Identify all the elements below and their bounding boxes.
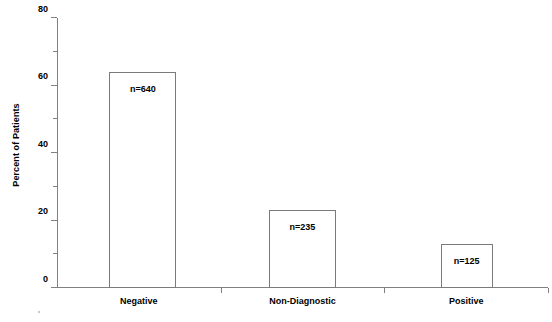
y-tick-label: 0 — [43, 274, 48, 284]
x-category-label: Negative — [120, 296, 158, 306]
y-tick-minor — [53, 118, 57, 119]
y-tick-major — [51, 152, 57, 153]
x-category-label: Non-Diagnostic — [269, 296, 336, 306]
y-tick-minor — [53, 51, 57, 52]
x-category-label: Positive — [449, 296, 484, 306]
y-axis-title-text: Percent of Patients — [11, 103, 21, 186]
y-tick-major — [51, 220, 57, 221]
y-tick-label: 80 — [38, 4, 48, 14]
bar-value-label: n=235 — [270, 222, 335, 232]
x-tick — [548, 288, 549, 293]
y-tick-minor — [53, 253, 57, 254]
bar-chart: Percent of Patients 020406080 n=640n=235… — [0, 0, 552, 322]
y-tick-label: 20 — [38, 206, 48, 216]
bar[interactable]: n=640 — [109, 72, 176, 288]
y-tick-label: 40 — [38, 139, 48, 149]
y-tick-major — [51, 17, 57, 18]
y-axis-line — [57, 18, 58, 288]
bar-value-label: n=125 — [442, 256, 492, 266]
x-tick — [221, 288, 222, 293]
y-tick-label: 60 — [38, 71, 48, 81]
bar-value-label: n=640 — [110, 84, 175, 94]
y-axis-title: Percent of Patients — [8, 0, 24, 290]
x-tick — [384, 288, 385, 293]
y-tick-minor — [53, 186, 57, 187]
bar[interactable]: n=235 — [269, 210, 336, 288]
y-tick-major — [51, 287, 57, 288]
y-tick-major — [51, 85, 57, 86]
scan-artifact — [38, 311, 40, 313]
plot-area: 020406080 n=640n=235n=125 — [57, 18, 548, 288]
bar[interactable]: n=125 — [441, 244, 493, 288]
